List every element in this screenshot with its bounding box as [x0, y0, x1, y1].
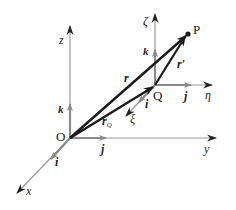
- zeta-axis-label: ζ: [143, 15, 148, 27]
- unit-vector-k-fixed-label: k: [58, 104, 64, 115]
- unit-vector-i-fixed-label: i: [55, 156, 58, 168]
- vector-diagram: z y x k j i O ζ η ξ k j i Q P r r′ rQ: [0, 0, 236, 210]
- diagram-graphics: [0, 0, 236, 210]
- z-axis-label: z: [59, 34, 64, 46]
- x-axis-label: x: [26, 185, 31, 197]
- vector-r-Q-subscript: Q: [107, 121, 112, 129]
- vector-r-label: r: [124, 72, 129, 84]
- point-Q-label: Q: [153, 89, 162, 102]
- unit-vector-i-moving-label: i: [145, 98, 148, 110]
- vector-r-Q-label: rQ: [102, 112, 112, 129]
- point-P-dot: [185, 31, 190, 36]
- y-axis-label: y: [204, 143, 209, 155]
- vector-r-prime-label: r′: [177, 58, 185, 70]
- origin-O-label: O: [56, 130, 65, 143]
- vector-r: [70, 36, 186, 138]
- position-vectors: [70, 36, 186, 138]
- unit-vector-j-fixed-label: j: [101, 143, 104, 155]
- xi-axis-label: ξ: [130, 113, 135, 125]
- unit-vector-k-moving-label: k: [143, 46, 149, 57]
- eta-axis-label: η: [205, 89, 211, 101]
- unit-vector-j-moving-label: j: [184, 90, 187, 102]
- point-P-label: P: [193, 23, 200, 36]
